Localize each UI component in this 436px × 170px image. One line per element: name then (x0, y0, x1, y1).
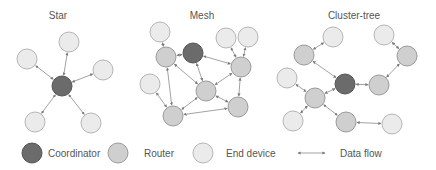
star-data-flow-edge (72, 74, 93, 82)
mesh-data-flow-edge (215, 73, 232, 85)
legend-router-icon (108, 143, 128, 163)
cluster-tree-end-device-node (382, 114, 402, 134)
cluster-tree-data-flow-edge (313, 61, 336, 77)
mesh-data-flow-edge (163, 43, 164, 47)
cluster-tree-end-device-node (283, 111, 303, 131)
cluster-tree-router-node (294, 45, 314, 65)
mesh-data-flow-edge (177, 55, 182, 56)
legend-coordinator-icon (22, 143, 42, 163)
mesh-data-flow-edge (239, 78, 240, 96)
cluster-tree-data-flow-edge (313, 43, 323, 49)
star-data-flow-edge (69, 95, 84, 115)
mesh-router-node (231, 57, 251, 77)
legend-data-flow-label: Data flow (340, 148, 382, 159)
star-coordinator-node (52, 76, 72, 96)
star-data-flow-edge (64, 53, 68, 75)
mesh-data-flow-edge (182, 98, 197, 110)
mesh-router-node (156, 47, 176, 67)
legend: Coordinator Router End device Data flow (22, 143, 382, 163)
mesh-title: Mesh (190, 10, 214, 21)
star-title: Star (49, 10, 68, 21)
mesh-data-flow-edge (167, 68, 171, 105)
mesh-end-device-node (216, 28, 236, 48)
cluster-tree-end-device-node (323, 27, 343, 47)
cluster-tree-router-node (305, 88, 325, 108)
mesh-data-flow-edge (204, 56, 231, 64)
star-end-device-node (59, 32, 79, 52)
mesh-router-node (196, 81, 216, 101)
mesh-router-node (228, 97, 248, 117)
cluster-tree-router-node (336, 112, 356, 132)
mesh-end-device-node (140, 74, 160, 94)
mesh-data-flow-edge (243, 48, 245, 57)
mesh-data-flow-edge (231, 48, 236, 57)
star-end-device-node (93, 60, 113, 80)
star-end-device-node (25, 112, 45, 132)
cluster-tree-coordinator-node (335, 74, 355, 94)
cluster-tree-router-node (369, 75, 389, 95)
cluster-tree-data-flow-edge (296, 84, 306, 91)
mesh-data-flow-edge (197, 63, 203, 80)
star-data-flow-edge (36, 66, 54, 80)
legend-end-device-label: End device (226, 148, 276, 159)
mesh-data-flow-edge (184, 109, 227, 115)
mesh-data-flow-edge (156, 93, 166, 107)
star-end-device-node (81, 113, 101, 133)
legend-coordinator-label: Coordinator (48, 148, 101, 159)
cluster-tree-end-device-node (277, 68, 297, 88)
cluster-tree-data-flow-edge (325, 89, 335, 94)
nodes-layer (17, 22, 417, 134)
cluster-tree-data-flow-edge (324, 105, 338, 116)
cluster-tree-data-flow-edge (301, 106, 308, 113)
legend-router-label: Router (144, 148, 175, 159)
titles-layer: Star Mesh Cluster-tree (49, 10, 381, 21)
topology-diagram: Star Mesh Cluster-tree Coordinator Route… (0, 0, 436, 170)
legend-end-device-icon (193, 143, 213, 163)
cluster-tree-data-flow-edge (392, 42, 399, 48)
cluster-tree-title: Cluster-tree (328, 10, 381, 21)
star-end-device-node (17, 49, 37, 69)
cluster-tree-data-flow-edge (387, 64, 400, 77)
cluster-tree-router-node (397, 46, 417, 66)
mesh-coordinator-node (183, 43, 203, 63)
star-data-flow-edge (42, 95, 56, 113)
mesh-data-flow-edge (174, 64, 197, 84)
mesh-end-device-node (150, 22, 170, 42)
cluster-tree-data-flow-edge (357, 122, 381, 123)
network-topology-svg: Star Mesh Cluster-tree Coordinator Route… (0, 0, 436, 170)
cluster-tree-end-device-node (374, 25, 394, 45)
mesh-end-device-node (238, 27, 258, 47)
mesh-data-flow-edge (216, 96, 228, 102)
mesh-router-node (163, 106, 183, 126)
